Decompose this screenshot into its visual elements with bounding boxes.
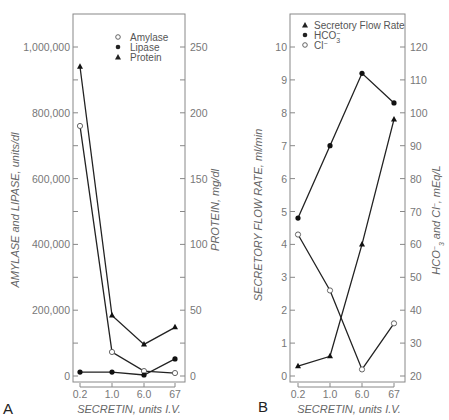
open-circle-marker <box>327 288 332 293</box>
legend-b: Secretory Flow Rate HCO3− Cl− <box>302 20 405 51</box>
filled-triangle-marker <box>327 353 333 359</box>
y-axis-right-label-b-part3: , mEq/L <box>430 165 442 203</box>
x-tick-label: 6.0 <box>355 388 370 400</box>
y-tick-label: 8 <box>281 107 287 119</box>
filled-circle-icon <box>303 33 308 38</box>
filled-triangle-marker <box>77 63 83 68</box>
open-circle-marker <box>172 370 177 375</box>
panel-label-b: B <box>258 398 268 415</box>
y-tick-label: 3 <box>281 271 287 283</box>
y-right-tick-label: 90 <box>410 140 422 152</box>
filled-circle-marker <box>172 356 177 361</box>
y-right-tick-label: 150 <box>190 173 208 185</box>
y-axis-right-label-b-part2: and Cl <box>430 207 442 242</box>
filled-circle-marker <box>327 143 332 148</box>
y-tick-label: 5 <box>281 206 287 218</box>
y-axis-right-label-b: HCO−3 and Cl−, mEq/L <box>430 165 445 274</box>
y-axis-right-label-b-part1: HCO <box>430 250 442 275</box>
filled-circle-marker <box>109 369 114 374</box>
x-tick-label: 6.0 <box>137 388 152 400</box>
open-circle-marker <box>359 367 364 372</box>
filled-circle-icon <box>116 45 121 50</box>
filled-circle-marker <box>359 71 364 76</box>
legend-label-protein: Protein <box>130 52 162 63</box>
x-axis-label-a: SECRETIN, units I.V. <box>77 403 181 415</box>
series-line-hco3- <box>298 73 394 218</box>
y-right-tick-label: 40 <box>410 304 422 316</box>
x-tick-label: 67 <box>169 388 181 400</box>
y-right-tick-label: 100 <box>190 238 208 250</box>
y-tick-label: 1,000,000 <box>23 41 70 53</box>
filled-triangle-marker <box>172 324 178 330</box>
legend-label-cl: Cl− <box>314 40 328 52</box>
y-tick-label: 10 <box>275 41 287 53</box>
y-tick-label: 2 <box>281 304 287 316</box>
y-tick-label: 0 <box>281 370 287 382</box>
legend-a: Amylase Lipase Protein <box>115 32 169 63</box>
y-tick-label: 0 <box>64 370 70 382</box>
y-right-tick-label: 110 <box>410 74 427 86</box>
y-right-tick-label: 120 <box>410 41 428 53</box>
y-right-tick-label: 100 <box>410 107 428 119</box>
y-right-tick-label: 20 <box>410 370 422 382</box>
legend-cl-text: Cl <box>314 40 323 51</box>
y-tick-label: 9 <box>281 74 287 86</box>
open-circle-marker <box>77 123 82 128</box>
y-tick-label: 6 <box>281 173 287 185</box>
y-right-tick-label: 0 <box>190 370 196 382</box>
x-tick-label: 1.0 <box>105 388 120 400</box>
y-right-tick-label: 80 <box>410 173 422 185</box>
filled-triangle-marker <box>391 116 397 122</box>
y-tick-label: 800,000 <box>32 107 70 119</box>
filled-triangle-marker <box>359 241 365 247</box>
y-tick-label: 200,000 <box>32 304 70 316</box>
y-tick-label: 7 <box>281 140 287 152</box>
y-axis-label-b: SECRETORY FLOW RATE, ml/min <box>252 129 264 302</box>
x-axis-label-b: SECRETIN, units I.V. <box>297 403 401 415</box>
y-tick-label: 600,000 <box>32 173 70 185</box>
y-right-tick-label: 50 <box>190 304 202 316</box>
x-tick-label: 1.0 <box>323 388 338 400</box>
superscript-minus: − <box>336 30 340 37</box>
filled-circle-marker <box>295 215 300 220</box>
open-circle-marker <box>295 232 300 237</box>
chart-panel-a: 0200,000400,000600,000800,0001,000,00005… <box>23 14 207 400</box>
open-circle-icon <box>116 35 121 40</box>
open-circle-marker <box>391 321 396 326</box>
filled-triangle-marker <box>109 312 115 318</box>
chart-panel-b: 01234567891020304050607080901001101200.2… <box>275 14 427 400</box>
filled-triangle-icon <box>115 54 121 60</box>
open-circle-marker <box>109 349 114 354</box>
y-right-tick-label: 70 <box>410 206 422 218</box>
y-tick-label: 4 <box>281 238 287 250</box>
superscript-minus: − <box>431 246 438 250</box>
y-right-tick-label: 30 <box>410 337 422 349</box>
y-tick-label: 400,000 <box>32 238 70 250</box>
filled-triangle-icon <box>302 22 308 28</box>
filled-circle-marker <box>391 100 396 105</box>
y-right-tick-label: 200 <box>190 107 208 119</box>
y-right-tick-label: 60 <box>410 238 422 250</box>
y-tick-label: 1 <box>281 337 287 349</box>
filled-circle-marker <box>77 369 82 374</box>
y-right-tick-label: 50 <box>410 271 422 283</box>
panel-label-a: A <box>3 400 13 417</box>
superscript-minus: − <box>323 40 327 47</box>
x-tick-label: 0.2 <box>291 388 306 400</box>
x-tick-label: 0.2 <box>73 388 88 400</box>
filled-circle-marker <box>141 372 146 377</box>
subscript-3: 3 <box>336 37 340 44</box>
x-tick-label: 67 <box>388 388 400 400</box>
figure: 0200,000400,000600,000800,0001,000,00005… <box>0 0 449 420</box>
y-axis-label-a: AMYLASE and LIPASE, units/dl <box>9 132 21 289</box>
series-line-protein <box>80 67 175 345</box>
open-circle-icon <box>303 43 308 48</box>
series-line-amylase <box>80 126 175 373</box>
y-axis-right-label-a: PROTEIN, mg/dl <box>209 168 221 250</box>
y-right-tick-label: 250 <box>190 41 208 53</box>
